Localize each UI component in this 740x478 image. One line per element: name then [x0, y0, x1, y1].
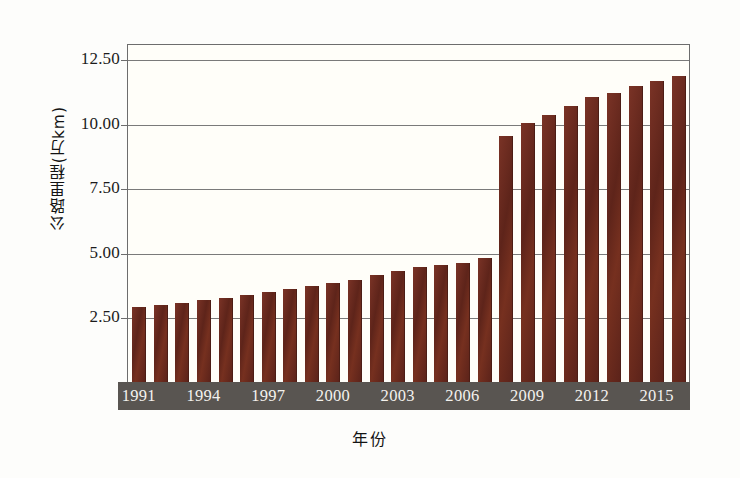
bar-2015	[650, 81, 664, 382]
x-tick-label-1991: 1991	[122, 386, 156, 406]
bars-layer	[128, 44, 689, 382]
bar-2005	[434, 265, 448, 382]
bar-1996	[240, 295, 254, 382]
x-tick-label-2012: 2012	[575, 386, 609, 406]
y-tick-mark	[121, 60, 128, 61]
y-tick-mark	[121, 189, 128, 190]
bar-2007	[478, 258, 492, 382]
bar-1991	[132, 307, 146, 382]
bar-1997	[262, 292, 276, 382]
bar-2012	[585, 97, 599, 382]
x-tick-label-2009: 2009	[510, 386, 544, 406]
y-tick-label: 10.00	[81, 114, 120, 134]
y-tick-label: 5.00	[89, 243, 120, 263]
y-tick-label: 7.50	[89, 178, 120, 198]
bar-2006	[456, 263, 470, 382]
bar-2010	[542, 115, 556, 382]
bar-2016	[672, 76, 686, 382]
road-mileage-bar-chart: 公路里程(万km) 199119941997200020032006200920…	[0, 0, 740, 478]
bar-2014	[629, 86, 643, 382]
bar-1992	[154, 305, 168, 382]
bar-2004	[413, 267, 427, 382]
x-axis-title: 年份	[0, 426, 740, 450]
bar-2002	[370, 275, 384, 382]
x-tick-label-2015: 2015	[640, 386, 674, 406]
y-tick-mark	[121, 254, 128, 255]
bar-1993	[175, 303, 189, 382]
y-tick-label: 12.50	[81, 49, 120, 69]
bar-2008	[499, 136, 513, 382]
bar-2001	[348, 280, 362, 382]
bar-2011	[564, 106, 578, 382]
bar-2003	[391, 271, 405, 382]
bar-1998	[283, 289, 297, 382]
x-axis-band: 199119941997200020032006200920122015	[118, 382, 690, 410]
bar-1995	[219, 298, 233, 382]
x-tick-label-2000: 2000	[316, 386, 350, 406]
y-tick-mark	[121, 318, 128, 319]
y-axis-title: 公路里程(万km)	[48, 106, 74, 231]
x-tick-label-2003: 2003	[381, 386, 415, 406]
x-tick-label-1997: 1997	[251, 386, 285, 406]
bar-2013	[607, 93, 621, 382]
x-tick-label-1994: 1994	[186, 386, 220, 406]
y-tick-mark	[121, 125, 128, 126]
bar-2000	[326, 283, 340, 382]
x-tick-label-2006: 2006	[445, 386, 479, 406]
bar-1994	[197, 300, 211, 382]
y-tick-label: 2.50	[89, 307, 120, 327]
bar-1999	[305, 286, 319, 382]
bar-2009	[521, 123, 535, 382]
